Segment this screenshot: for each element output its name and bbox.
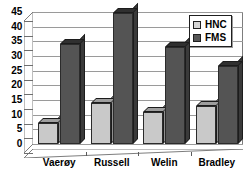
bar-fms-2 <box>165 47 185 144</box>
x-axis-tick-label: Welin <box>138 158 191 168</box>
legend-item-hnc: HNC <box>193 18 227 31</box>
chart-legend: HNC FMS <box>189 15 232 47</box>
bar-front-face <box>60 44 80 144</box>
x-axis-tick-mark <box>138 152 139 156</box>
x-axis-tick-label: Russell <box>86 158 139 168</box>
y-axis-tick-label: 45 <box>0 7 22 17</box>
bar-front-face <box>165 47 185 144</box>
x-axis-tick-mark <box>86 152 87 156</box>
y-axis-tick-label: 10 <box>0 110 22 120</box>
bar-front-face <box>38 123 58 144</box>
bar-chart: 051015202530354045 VaerøyRussellWelinBra… <box>0 0 251 182</box>
bar-side-face <box>185 37 190 144</box>
bar-hnc-2 <box>143 112 163 144</box>
y-axis-tick-label: 25 <box>0 66 22 76</box>
legend-swatch-fms <box>193 34 201 42</box>
bar-front-face <box>143 112 163 144</box>
x-axis-tick-label: Vaerøy <box>33 158 86 168</box>
y-axis-tick-label: 15 <box>0 95 22 105</box>
y-axis-tick-mark <box>24 153 33 154</box>
y-axis: 051015202530354045 <box>0 0 22 182</box>
bar-hnc-0 <box>38 123 58 144</box>
bar-fms-3 <box>218 66 238 144</box>
bar-fms-0 <box>60 44 80 144</box>
legend-swatch-hnc <box>193 21 201 29</box>
bar-front-face <box>91 103 111 144</box>
y-axis-tick-label: 0 <box>0 139 22 149</box>
bar-hnc-3 <box>196 106 216 144</box>
y-axis-tick-label: 5 <box>0 124 22 134</box>
legend-label-fms: FMS <box>205 33 226 43</box>
bar-front-face <box>196 106 216 144</box>
bar-fms-1 <box>113 13 133 144</box>
y-axis-tick-label: 40 <box>0 22 22 32</box>
x-axis: VaerøyRussellWelinBradley <box>24 158 243 178</box>
legend-item-fms: FMS <box>193 31 227 44</box>
bar-side-face <box>133 3 138 144</box>
bar-front-face <box>218 66 238 144</box>
y-axis-tick-label: 35 <box>0 36 22 46</box>
legend-label-hnc: HNC <box>205 20 227 30</box>
bar-side-face <box>238 56 243 144</box>
x-axis-tick-label: Bradley <box>191 158 244 168</box>
y-axis-tick-label: 20 <box>0 80 22 90</box>
bar-hnc-1 <box>91 103 111 144</box>
bar-front-face <box>113 13 133 144</box>
bar-side-face <box>80 34 85 144</box>
y-axis-tick-label: 30 <box>0 51 22 61</box>
x-axis-tick-mark <box>191 152 192 156</box>
